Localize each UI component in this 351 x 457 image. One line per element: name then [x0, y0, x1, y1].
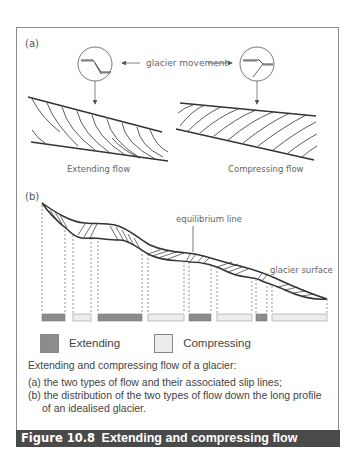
- panel-a-label: (a): [25, 38, 39, 49]
- description-item-b: (b) the distribution of the two types of…: [28, 389, 328, 415]
- figure-description: Extending and compressing flow of a glac…: [28, 359, 328, 415]
- segment-extending: [256, 314, 267, 321]
- segment-compressing: [73, 314, 91, 321]
- description-item-a: (a) the two types of flow and their asso…: [28, 376, 328, 389]
- segment-extending: [189, 314, 211, 321]
- segment-compressing: [148, 314, 184, 321]
- description-intro: Extending and compressing flow of a glac…: [28, 359, 328, 372]
- equilibrium-line-label: equilibrium line: [176, 214, 242, 224]
- extending-swatch: [40, 334, 59, 353]
- compressing-flow-diagram: [176, 103, 317, 160]
- figure-title: Extending and compressing flow: [102, 431, 298, 445]
- segment-extending: [98, 314, 142, 321]
- legend: Extending Compressing: [40, 332, 251, 354]
- compressing-flow-label: Compressing flow: [228, 164, 304, 174]
- legend-extending-label: Extending: [69, 337, 120, 349]
- extending-flow-label: Extending flow: [67, 164, 130, 174]
- legend-item-extending: Extending: [40, 334, 120, 353]
- segment-compressing: [217, 314, 252, 321]
- slip-plane-extending-icon: [78, 47, 112, 104]
- glacier-surface-label: glacier surface: [270, 265, 333, 275]
- flow-segment-bars: [42, 314, 327, 321]
- figure-caption-bar: Figure 10.8 Extending and compressing fl…: [16, 430, 340, 447]
- panel-b-label: (b): [25, 191, 39, 202]
- extending-flow-diagram: [28, 97, 168, 161]
- slip-plane-compressing-icon: [240, 47, 274, 104]
- segment-compressing: [272, 314, 327, 321]
- legend-item-compressing: Compressing: [154, 334, 251, 353]
- segment-extending: [42, 314, 65, 321]
- glacier-movement-label: glacier movement: [146, 58, 228, 68]
- figure-number: Figure 10.8: [21, 431, 95, 445]
- legend-compressing-label: Compressing: [183, 337, 251, 349]
- compressing-swatch: [154, 334, 173, 353]
